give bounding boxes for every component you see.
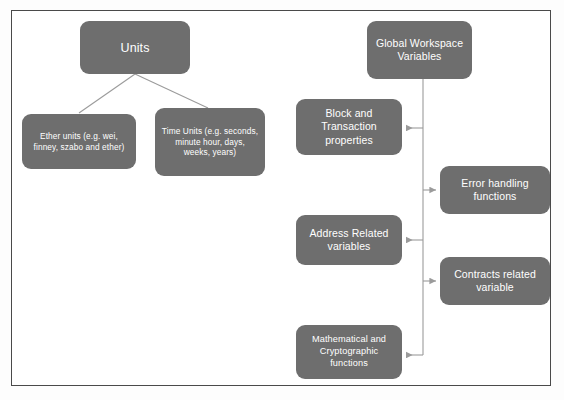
node-time-units[interactable]: Time Units (e.g. seconds, minute hour, d… (155, 108, 265, 176)
diagram-canvas: Units Ether units (e.g. wei, finney, sza… (0, 0, 564, 400)
node-block-and-transaction-properties[interactable]: Block and Transaction properties (296, 99, 402, 155)
node-contracts-related-variable[interactable]: Contracts related variable (440, 257, 550, 305)
node-ether-units-label: Ether units (e.g. wei, finney, szabo and… (28, 131, 130, 152)
node-units-label: Units (86, 40, 184, 56)
node-block-and-transaction-properties-label: Block and Transaction properties (302, 107, 396, 147)
node-global-workspace-variables[interactable]: Global Workspace Variables (367, 21, 472, 79)
node-error-handling-functions-label: Error handling functions (446, 177, 544, 204)
node-mathematical-and-cryptographic-functions[interactable]: Mathematical and Cryptographic functions (296, 325, 402, 379)
node-address-related-variables[interactable]: Address Related variables (296, 215, 402, 265)
node-units[interactable]: Units (80, 21, 190, 74)
node-global-workspace-variables-label: Global Workspace Variables (373, 37, 466, 64)
node-ether-units[interactable]: Ether units (e.g. wei, finney, szabo and… (22, 114, 136, 169)
node-time-units-label: Time Units (e.g. seconds, minute hour, d… (161, 126, 259, 158)
node-mathematical-and-cryptographic-functions-label: Mathematical and Cryptographic functions (302, 334, 396, 369)
node-contracts-related-variable-label: Contracts related variable (446, 268, 544, 295)
node-address-related-variables-label: Address Related variables (302, 227, 396, 254)
node-error-handling-functions[interactable]: Error handling functions (440, 166, 550, 214)
